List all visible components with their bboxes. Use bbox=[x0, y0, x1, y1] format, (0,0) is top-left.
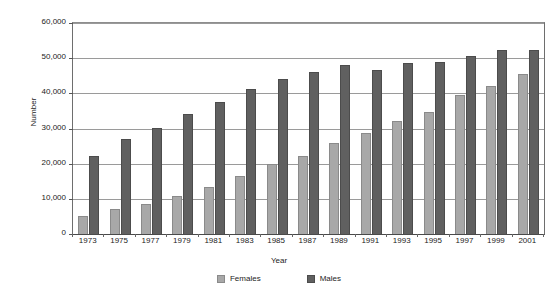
y-axis-tick-label: 60,000 bbox=[22, 17, 66, 26]
bar-females-1981[interactable] bbox=[204, 187, 214, 234]
x-axis-tick-labels: 1973197519771979198119831985198719891991… bbox=[72, 236, 545, 250]
bar-females-1995[interactable] bbox=[424, 112, 434, 234]
x-axis-tick-label: 1981 bbox=[198, 236, 229, 245]
bars-layer bbox=[73, 23, 544, 234]
y-axis-tick-label: 0 bbox=[22, 228, 66, 237]
bar-males-1989[interactable] bbox=[340, 65, 350, 234]
y-axis-tick-label: 30,000 bbox=[22, 123, 66, 132]
x-axis-tick-label: 1979 bbox=[166, 236, 197, 245]
y-axis-tick-label: 20,000 bbox=[22, 158, 66, 167]
bar-females-1985[interactable] bbox=[267, 164, 277, 234]
bar-males-1993[interactable] bbox=[403, 63, 413, 234]
bar-males-1987[interactable] bbox=[309, 72, 319, 234]
legend-swatch-males-icon bbox=[307, 275, 315, 283]
x-axis-tick-label: 1993 bbox=[386, 236, 417, 245]
bar-females-1993[interactable] bbox=[392, 121, 402, 234]
bar-group bbox=[387, 23, 418, 234]
bar-females-2001[interactable] bbox=[518, 74, 528, 234]
bar-group bbox=[293, 23, 324, 234]
bar-males-1977[interactable] bbox=[152, 128, 162, 234]
x-axis-tick-label: 1987 bbox=[292, 236, 323, 245]
bar-females-1973[interactable] bbox=[78, 216, 88, 234]
x-axis-tick-label: 2001 bbox=[512, 236, 543, 245]
bar-group bbox=[418, 23, 449, 234]
bar-group bbox=[324, 23, 355, 234]
chart-legend: Females Males bbox=[0, 274, 558, 283]
bar-females-1987[interactable] bbox=[298, 156, 308, 234]
bar-group bbox=[261, 23, 292, 234]
y-axis-tick-label: 50,000 bbox=[22, 52, 66, 61]
x-axis-tick-label: 1991 bbox=[355, 236, 386, 245]
x-axis-tick-label: 1985 bbox=[260, 236, 291, 245]
legend-label-females: Females bbox=[230, 274, 261, 283]
bar-males-1975[interactable] bbox=[121, 139, 131, 234]
bar-group bbox=[513, 23, 544, 234]
bar-group bbox=[230, 23, 261, 234]
bar-males-1991[interactable] bbox=[372, 70, 382, 234]
x-axis-tick-label: 1999 bbox=[480, 236, 511, 245]
bar-group bbox=[481, 23, 512, 234]
bar-males-1979[interactable] bbox=[183, 114, 193, 234]
x-axis-tick-label: 1977 bbox=[135, 236, 166, 245]
bar-group bbox=[73, 23, 104, 234]
bar-males-1981[interactable] bbox=[215, 102, 225, 234]
bar-females-1997[interactable] bbox=[455, 95, 465, 234]
bar-females-1975[interactable] bbox=[110, 209, 120, 234]
bar-females-1977[interactable] bbox=[141, 204, 151, 234]
x-axis-tick-label: 1995 bbox=[417, 236, 448, 245]
legend-label-males: Males bbox=[320, 274, 341, 283]
bar-females-1979[interactable] bbox=[172, 196, 182, 234]
bar-females-1983[interactable] bbox=[235, 176, 245, 234]
legend-swatch-females-icon bbox=[217, 275, 225, 283]
y-axis-tick-label: 10,000 bbox=[22, 193, 66, 202]
bar-males-1997[interactable] bbox=[466, 56, 476, 234]
bar-group bbox=[167, 23, 198, 234]
bar-males-1973[interactable] bbox=[89, 156, 99, 234]
bar-group bbox=[199, 23, 230, 234]
legend-item-females: Females bbox=[217, 274, 261, 283]
plot-area bbox=[72, 22, 545, 235]
legend-item-males: Males bbox=[307, 274, 341, 283]
y-axis-tick-labels: 010,00020,00030,00040,00050,00060,000 bbox=[18, 0, 66, 296]
bar-group bbox=[136, 23, 167, 234]
bar-males-1985[interactable] bbox=[278, 79, 288, 234]
bar-chart: Number 010,00020,00030,00040,00050,00060… bbox=[0, 0, 558, 296]
x-axis-tick-label: 1997 bbox=[449, 236, 480, 245]
bar-group bbox=[450, 23, 481, 234]
bar-males-1983[interactable] bbox=[246, 89, 256, 234]
x-axis-tick-label: 1973 bbox=[72, 236, 103, 245]
x-axis-tick-label: 1983 bbox=[229, 236, 260, 245]
bar-females-1991[interactable] bbox=[361, 133, 371, 234]
y-axis-tick-label: 40,000 bbox=[22, 87, 66, 96]
bar-males-2001[interactable] bbox=[529, 50, 539, 234]
bar-males-1999[interactable] bbox=[497, 50, 507, 234]
bar-males-1995[interactable] bbox=[435, 62, 445, 234]
bar-group bbox=[104, 23, 135, 234]
x-axis-tick-label: 1975 bbox=[103, 236, 134, 245]
x-axis-tick-label: 1989 bbox=[323, 236, 354, 245]
bar-females-1999[interactable] bbox=[486, 86, 496, 234]
bar-females-1989[interactable] bbox=[329, 143, 339, 234]
x-axis-title: Year bbox=[0, 256, 558, 265]
bar-group bbox=[356, 23, 387, 234]
